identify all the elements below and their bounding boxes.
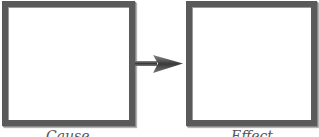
cause-label: Cause — [46, 127, 90, 137]
arrow-right-icon — [135, 53, 185, 75]
effect-box — [186, 1, 317, 126]
effect-label: Effect — [231, 127, 273, 137]
cause-box — [2, 1, 135, 126]
